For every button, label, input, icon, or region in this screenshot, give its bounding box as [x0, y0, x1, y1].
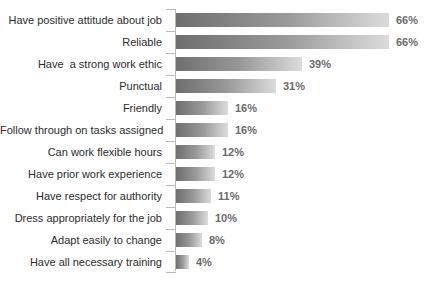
axis-tick — [166, 141, 176, 142]
bar — [176, 35, 389, 49]
axis-tick — [166, 251, 176, 252]
bar-fill — [176, 101, 228, 115]
bar-row: Have prior work experience12% — [0, 163, 437, 185]
bar-value-label: 39% — [309, 55, 331, 73]
category-label: Have a strong work ethic — [0, 53, 167, 75]
axis-tick — [166, 53, 176, 54]
bar-row: Dress appropriately for the job10% — [0, 207, 437, 229]
bar-value-label: 12% — [222, 165, 244, 183]
category-label: Can work flexible hours — [0, 141, 167, 163]
bar-fill — [176, 211, 208, 225]
bar-fill — [176, 13, 389, 27]
bar-fill — [176, 189, 211, 203]
bar-fill — [176, 145, 215, 159]
bar-value-label: 11% — [218, 187, 239, 205]
category-label: Reliable — [0, 31, 167, 53]
bar-fill — [176, 57, 302, 71]
bar-fill — [176, 255, 189, 269]
bar-row: Have respect for authority11% — [0, 185, 437, 207]
category-label: Dress appropriately for the job — [0, 207, 167, 229]
bar — [176, 145, 215, 159]
axis-tick — [166, 163, 176, 164]
category-label: Have prior work experience — [0, 163, 167, 185]
bar — [176, 101, 228, 115]
bar — [176, 123, 228, 137]
bar-row: Have positive attitude about job66% — [0, 9, 437, 31]
axis-tick — [166, 119, 176, 120]
bar-value-label: 4% — [196, 253, 212, 271]
bar — [176, 167, 215, 181]
category-label: Friendly — [0, 97, 167, 119]
axis-tick — [166, 31, 176, 32]
bar-row: Reliable66% — [0, 31, 437, 53]
category-label: Follow through on tasks assigned — [0, 119, 167, 141]
bar-value-label: 66% — [396, 33, 418, 51]
category-label: Adapt easily to change — [0, 229, 167, 251]
bar-value-label: 66% — [396, 11, 418, 29]
bar-row: Punctual31% — [0, 75, 437, 97]
bar — [176, 189, 211, 203]
bar — [176, 233, 202, 247]
bar-fill — [176, 123, 228, 137]
bar — [176, 13, 389, 27]
category-label: Have all necessary training — [0, 251, 167, 273]
bar — [176, 57, 302, 71]
bar-fill — [176, 35, 389, 49]
category-label: Have respect for authority — [0, 185, 167, 207]
bar — [176, 79, 276, 93]
bar-row: Follow through on tasks assigned16% — [0, 119, 437, 141]
chart-title-remnant — [0, 0, 437, 8]
bar-row: Can work flexible hours12% — [0, 141, 437, 163]
bar-row: Have a strong work ethic39% — [0, 53, 437, 75]
bar-value-label: 16% — [235, 121, 257, 139]
bar-row: Have all necessary training4% — [0, 251, 437, 273]
bar — [176, 255, 189, 269]
bar-rows: Have positive attitude about job66%Relia… — [0, 9, 437, 273]
bar-fill — [176, 79, 276, 93]
bar-value-label: 31% — [283, 77, 305, 95]
horizontal-bar-chart: Have positive attitude about job66%Relia… — [0, 0, 437, 282]
axis-tick — [166, 185, 176, 186]
bar — [176, 211, 208, 225]
bar-row: Friendly16% — [0, 97, 437, 119]
axis-tick — [166, 75, 176, 76]
axis-tick — [166, 229, 176, 230]
axis-tick — [166, 9, 176, 10]
bar-value-label: 12% — [222, 143, 244, 161]
bar-fill — [176, 167, 215, 181]
bar-value-label: 16% — [235, 99, 257, 117]
bar-fill — [176, 233, 202, 247]
bar-row: Adapt easily to change8% — [0, 229, 437, 251]
bar-value-label: 8% — [209, 231, 225, 249]
category-label: Punctual — [0, 75, 167, 97]
plot-area: Have positive attitude about job66%Relia… — [0, 9, 437, 273]
axis-tick — [166, 207, 176, 208]
category-label: Have positive attitude about job — [0, 9, 167, 31]
axis-tick — [166, 272, 176, 273]
axis-tick — [166, 97, 176, 98]
bar-value-label: 10% — [215, 209, 237, 227]
